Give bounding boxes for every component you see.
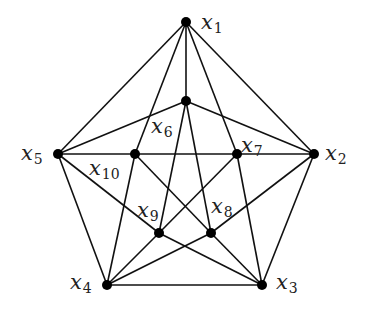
label-base: x (70, 270, 82, 294)
label-base: x (89, 156, 101, 180)
label-subscript: 8 (224, 204, 233, 220)
node-x9 (154, 228, 164, 238)
label-subscript: 9 (150, 208, 159, 224)
label-subscript: 5 (34, 151, 43, 167)
node-x6 (181, 96, 191, 106)
node-x3 (257, 280, 267, 290)
label-subscript: 4 (83, 280, 92, 296)
label-base: x (201, 10, 213, 34)
node-label-x7: x7 (241, 135, 263, 158)
node-label-x3: x3 (276, 272, 298, 295)
label-base: x (211, 194, 223, 218)
node-label-x2: x2 (325, 143, 347, 166)
node-label-x10: x10 (89, 158, 120, 181)
label-subscript: 6 (164, 124, 173, 140)
node-label-x4: x4 (70, 272, 92, 295)
edge-x9-x3 (159, 233, 262, 285)
node-label-x6: x6 (151, 116, 173, 139)
graph-canvas (0, 0, 368, 311)
label-subscript: 2 (338, 151, 347, 167)
node-x10 (130, 149, 140, 159)
node-x1 (181, 17, 191, 27)
label-subscript: 1 (214, 20, 223, 36)
label-subscript: 10 (102, 166, 120, 182)
node-x2 (309, 149, 319, 159)
node-label-x8: x8 (211, 196, 233, 219)
node-label-x5: x5 (21, 143, 43, 166)
label-base: x (151, 114, 163, 138)
label-base: x (276, 270, 288, 294)
node-label-x1: x1 (201, 12, 223, 35)
label-base: x (21, 141, 33, 165)
edge-x9-x4 (107, 233, 159, 285)
graph-diagram: x1x2x3x4x5x6x7x8x9x10 (0, 0, 368, 311)
node-x4 (102, 280, 112, 290)
edge-x1-x7 (186, 22, 237, 154)
label-base: x (325, 141, 337, 165)
edge-x8-x4 (107, 233, 211, 285)
edge-x6-x8 (186, 101, 211, 233)
label-base: x (137, 198, 149, 222)
edge-x7-x3 (237, 154, 262, 285)
node-x8 (206, 228, 216, 238)
edges-group (58, 22, 314, 285)
label-subscript: 7 (254, 143, 263, 159)
node-x5 (53, 149, 63, 159)
label-base: x (241, 133, 253, 157)
node-label-x9: x9 (137, 200, 159, 223)
label-subscript: 3 (289, 280, 298, 296)
